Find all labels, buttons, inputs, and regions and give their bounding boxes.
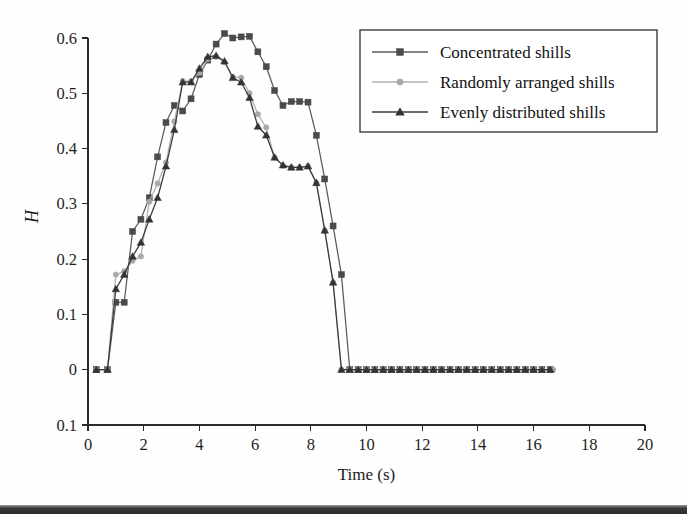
data-point-marker (247, 33, 253, 39)
figure-root: 0.60.50.40.30.20.100.102468101214161820T… (0, 0, 687, 514)
y-axis-title: H (22, 209, 42, 224)
data-point-marker (163, 120, 169, 126)
data-point-marker (238, 34, 244, 40)
data-point-marker (138, 254, 143, 259)
legend-group: Concentrated shillsRandomly arranged shi… (360, 30, 657, 132)
x-tick-label: 0 (84, 435, 92, 454)
line-chart: 0.60.50.40.30.20.100.102468101214161820T… (0, 0, 687, 500)
x-tick-label: 12 (414, 435, 431, 454)
y-tick-label: 0.5 (56, 84, 77, 103)
data-point-marker (171, 102, 177, 108)
data-point-marker (313, 132, 319, 138)
data-point-marker (272, 88, 278, 94)
data-point-marker (155, 154, 161, 160)
data-point-marker (246, 94, 254, 101)
y-tick-label: 0.1 (56, 305, 77, 324)
data-point-marker (155, 181, 160, 186)
data-point-marker (230, 35, 236, 41)
y-tick-label: 0.1 (56, 416, 77, 435)
data-point-marker (180, 108, 186, 114)
x-tick-label: 16 (525, 435, 542, 454)
x-tick-label: 2 (140, 435, 148, 454)
data-point-marker (171, 126, 179, 133)
data-point-marker (338, 272, 344, 278)
data-point-marker (255, 49, 261, 55)
x-tick-label: 14 (470, 435, 487, 454)
legend-label: Randomly arranged shills (440, 73, 615, 92)
y-tick-label: 0 (69, 360, 77, 379)
data-point-marker (138, 216, 144, 222)
x-tick-label: 8 (307, 435, 315, 454)
data-point-marker (221, 31, 227, 37)
data-point-marker (263, 64, 269, 70)
data-point-marker (121, 299, 127, 305)
data-point-marker (288, 99, 294, 105)
page-edge-bar (0, 505, 687, 514)
x-tick-label: 18 (581, 435, 598, 454)
data-point-marker (330, 223, 336, 229)
data-point-marker (154, 194, 162, 201)
data-point-marker (255, 112, 260, 117)
data-point-marker (130, 229, 136, 235)
y-tick-label: 0.2 (56, 250, 77, 269)
data-point-marker (188, 96, 194, 102)
data-point-marker (305, 99, 311, 105)
legend-label: Evenly distributed shills (440, 103, 605, 122)
legend-marker (397, 79, 403, 85)
x-axis-title: Time (s) (338, 465, 395, 484)
data-point-marker (213, 41, 219, 47)
x-tick-label: 10 (358, 435, 375, 454)
legend-label: Concentrated shills (440, 43, 571, 62)
data-point-marker (322, 176, 328, 182)
x-tick-label: 6 (251, 435, 259, 454)
legend-marker (397, 49, 404, 56)
x-tick-label: 20 (637, 435, 654, 454)
y-tick-label: 0.6 (56, 29, 77, 48)
data-point-marker (147, 199, 152, 204)
data-point-marker (280, 102, 286, 108)
y-tick-label: 0.3 (56, 194, 77, 213)
data-point-marker (264, 125, 269, 130)
data-point-marker (113, 272, 118, 277)
y-tick-label: 0.4 (56, 139, 77, 158)
data-point-marker (254, 123, 262, 130)
data-point-marker (297, 99, 303, 105)
data-point-marker (112, 285, 120, 292)
data-point-marker (212, 52, 220, 59)
x-tick-label: 4 (195, 435, 203, 454)
